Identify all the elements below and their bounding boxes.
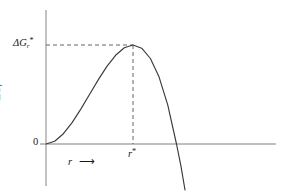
y-axis-arrow-icon: ⟶ bbox=[0, 61, 2, 77]
delta-symbol: Δ bbox=[0, 94, 2, 100]
x-axis-arrow-icon: ⟶ bbox=[79, 156, 95, 167]
free-energy-curve bbox=[46, 45, 185, 190]
superscript-star: * bbox=[30, 36, 34, 45]
y-axis-peak-value-label: ΔGr* bbox=[13, 37, 34, 51]
critical-radius-label: r* bbox=[128, 148, 136, 160]
gibbs-symbol: G bbox=[19, 37, 27, 48]
origin-zero-label: 0 bbox=[33, 137, 38, 148]
nucleation-free-energy-figure: ΔGr* ΔGr⟶ 0 r⟶ r* bbox=[0, 0, 289, 195]
gibbs-symbol: G bbox=[0, 86, 2, 94]
superscript-star: * bbox=[132, 147, 136, 156]
plot-canvas bbox=[0, 0, 289, 195]
y-axis-title: ΔGr⟶ bbox=[0, 61, 4, 100]
x-axis-title: r⟶ bbox=[68, 157, 95, 168]
radius-symbol: r bbox=[68, 156, 72, 167]
subscript-r: r bbox=[0, 83, 4, 86]
